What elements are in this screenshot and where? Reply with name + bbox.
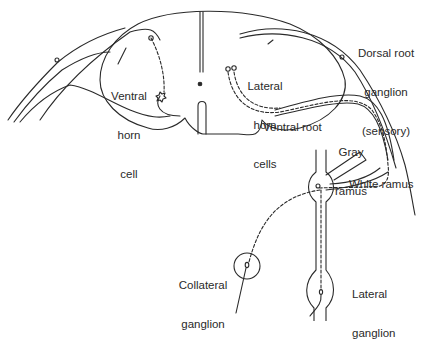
ventral-horn-line2: horn: [102, 129, 156, 142]
left-ganglion-cell: [55, 58, 59, 62]
collateral-ganglion-cell: [245, 262, 249, 267]
ventral-horn-cell-label: Ventral horn cell: [102, 64, 156, 194]
ventral-horn-line3: cell: [102, 168, 156, 181]
left-nerve-trunk-2: [14, 52, 110, 122]
dorsal-root-line1: Dorsal root: [348, 47, 424, 60]
lateral-horn-pointer: [268, 40, 273, 44]
central-canal: [198, 82, 202, 86]
collateral-ganglion: [234, 253, 260, 279]
ventral-horn-pointer: [118, 48, 126, 64]
lateral-horn-cells-label: Lateral horn cells: [240, 54, 290, 184]
chain-ganglion-cell: [316, 184, 320, 188]
lateral-horn-cell-2: [232, 66, 236, 70]
ventral-horn-axon: [158, 96, 180, 116]
ventral-median-fissure: [198, 102, 206, 135]
sympathetic-chain-left: [307, 150, 316, 321]
dorsal-root-line2: ganglion: [348, 86, 424, 99]
lateral-horn-line3: cells: [240, 158, 290, 171]
lateral-horn-line1: Lateral: [240, 80, 290, 93]
lateral-horn-cell-1: [226, 67, 230, 71]
ventral-horn-line1: Ventral: [102, 90, 156, 103]
white-ramus-label: White ramus: [349, 178, 414, 191]
lateral-ganglion-label: Lateral ganglion: [352, 262, 395, 343]
collateral-line2: ganglion: [172, 318, 234, 331]
collateral-line1: Collateral: [172, 279, 234, 292]
lateral-ganglion-cell: [319, 290, 322, 295]
lateral-ganglion-line1: Lateral: [352, 288, 395, 301]
collateral-fiber: [249, 190, 320, 262]
gray-ramus-label: Gray ramus: [330, 120, 372, 211]
gray-ramus-line1: Gray: [330, 146, 372, 159]
collateral-ganglion-label: Collateral ganglion: [172, 253, 234, 343]
ventral-root-label: Ventral root: [263, 121, 322, 134]
lateral-ganglion-line2: ganglion: [352, 327, 395, 340]
